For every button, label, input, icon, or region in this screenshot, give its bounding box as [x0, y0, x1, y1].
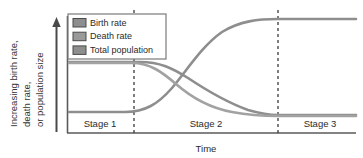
legend-label-death-rate: Death rate — [90, 31, 132, 41]
y-axis-label: Increasing birth rate, death rate, or po… — [8, 40, 45, 127]
legend-swatch-death-rate — [73, 32, 86, 41]
legend-swatch-birth-rate — [73, 19, 86, 28]
x-axis-label: Time — [196, 143, 217, 154]
stage-label-1: Stage 1 — [84, 118, 117, 129]
y-axis-label-line-2: death rate, — [21, 82, 32, 127]
up-arrow-icon — [52, 17, 60, 132]
series-line-death-rate — [69, 63, 356, 116]
stage-label-3: Stage 3 — [304, 118, 337, 129]
stage-label-2: Stage 2 — [190, 118, 223, 129]
y-axis-label-line-1: Increasing birth rate, — [8, 40, 19, 127]
y-axis-label-line-3: or population size — [34, 53, 45, 127]
demographic-transition-figure: Increasing birth rate, death rate, or po… — [0, 0, 363, 158]
legend-swatch-total-population — [73, 46, 86, 55]
legend-label-total-population: Total population — [90, 45, 153, 55]
legend: Birth rate Death rate Total population — [68, 14, 166, 59]
legend-label-birth-rate: Birth rate — [90, 18, 127, 28]
chart-canvas: Increasing birth rate, death rate, or po… — [0, 0, 363, 158]
